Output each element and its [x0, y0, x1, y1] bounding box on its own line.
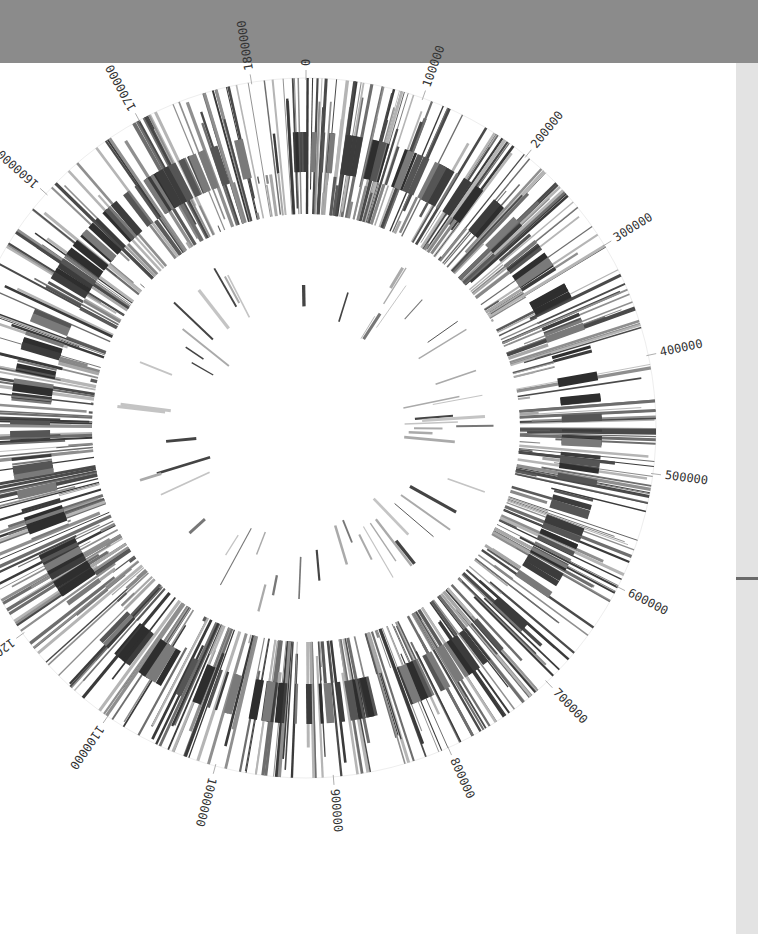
feature-bar — [10, 439, 50, 441]
feature-bar — [558, 376, 597, 383]
feature-bar — [401, 495, 450, 530]
feature-bar — [403, 397, 459, 409]
feature-bar — [335, 526, 347, 565]
feature-bar — [404, 437, 455, 442]
feature-bar — [157, 457, 210, 473]
feature-bar — [0, 425, 92, 426]
feature-bar — [140, 474, 161, 481]
feature-bar — [487, 549, 519, 570]
feature-bar — [317, 550, 320, 581]
feature-tracks — [0, 78, 656, 778]
feature-bar — [518, 398, 530, 400]
circular-genome-map: 0100000200000300000400000500000600000700… — [0, 0, 758, 934]
feature-bar — [419, 329, 467, 358]
feature-bar — [220, 528, 251, 585]
feature-bar — [253, 680, 260, 719]
feature-bar — [374, 499, 409, 535]
tick-label: 800000 — [447, 756, 477, 801]
feature-bar — [448, 479, 485, 492]
feature-bar — [459, 578, 463, 582]
tick-label: 1700000 — [103, 62, 139, 113]
feature-bar — [493, 532, 530, 552]
tick-mark — [525, 150, 531, 158]
feature-bar — [490, 582, 574, 653]
feature-bar — [520, 413, 539, 414]
feature-bar — [561, 397, 601, 401]
feature-bar — [339, 292, 348, 321]
feature-bar — [302, 132, 303, 172]
feature-bar — [405, 300, 423, 319]
feature-bar — [199, 290, 229, 329]
tick-label: 600000 — [626, 586, 671, 618]
feature-bar — [13, 387, 53, 393]
feature-bar — [343, 520, 352, 542]
feature-bar — [299, 557, 301, 599]
feature-bar — [409, 432, 433, 433]
feature-bar — [130, 557, 136, 562]
feature-bar — [257, 532, 266, 554]
tick-mark — [40, 188, 47, 195]
feature-bar — [313, 132, 314, 172]
feature-bar — [327, 683, 330, 723]
feature-bar — [542, 458, 560, 460]
tick-mark — [16, 632, 24, 638]
tick-label: 300000 — [611, 210, 655, 245]
tick-label: 1100000 — [67, 723, 107, 773]
feature-bar — [204, 617, 206, 621]
feature-bar — [68, 520, 71, 521]
feature-bar — [258, 177, 259, 184]
feature-bar — [218, 226, 221, 232]
feature-bar — [436, 371, 476, 385]
feature-bar — [520, 442, 541, 443]
feature-bar — [91, 380, 98, 382]
feature-bar — [166, 439, 196, 442]
tick-label: 700000 — [550, 685, 590, 726]
feature-bar — [370, 222, 371, 224]
feature-bar — [186, 347, 204, 359]
feature-bar — [258, 585, 265, 612]
feature-bar — [10, 422, 50, 423]
feature-bar — [391, 268, 403, 288]
feature-bar — [384, 268, 407, 304]
feature-bar — [140, 362, 172, 375]
tick-mark — [103, 715, 109, 723]
feature-bar — [469, 566, 501, 593]
feature-bar — [329, 133, 333, 173]
feature-bar — [273, 575, 277, 595]
tick-label: 0 — [299, 59, 313, 66]
tick-label: 500000 — [664, 468, 709, 488]
tick-mark — [545, 680, 552, 687]
feature-bar — [10, 433, 50, 434]
tick-label: 200000 — [528, 108, 566, 151]
feature-bar — [279, 672, 280, 682]
feature-bar — [257, 213, 259, 220]
tick-label: 1800000 — [234, 19, 256, 71]
feature-bar — [493, 549, 521, 567]
feature-bar — [491, 320, 493, 321]
track-forward-features — [0, 78, 656, 778]
feature-bar — [226, 535, 239, 555]
tick-label: 1000000 — [193, 776, 220, 828]
feature-bar — [266, 682, 271, 722]
tick-label: 1600000 — [0, 147, 41, 191]
feature-bar — [405, 422, 458, 424]
tick-label: 1200000 — [0, 635, 18, 676]
feature-bar — [307, 78, 308, 214]
tick-label: 900000 — [328, 788, 345, 832]
feature-bar — [322, 641, 325, 683]
feature-bar — [309, 684, 310, 724]
tick-label: 100000 — [420, 43, 448, 89]
track-inner-sparse — [117, 268, 493, 612]
feature-bar — [183, 329, 229, 366]
feature-bar — [190, 519, 205, 533]
feature-bar — [228, 675, 239, 714]
feature-bar — [267, 175, 268, 184]
feature-bar — [297, 132, 298, 172]
feature-bar — [311, 642, 312, 684]
feature-bar — [498, 314, 536, 333]
feature-bar — [396, 541, 414, 564]
feature-bar — [428, 321, 458, 342]
feature-bar — [214, 268, 236, 306]
feature-bar — [410, 486, 456, 512]
feature-bar — [395, 504, 434, 537]
